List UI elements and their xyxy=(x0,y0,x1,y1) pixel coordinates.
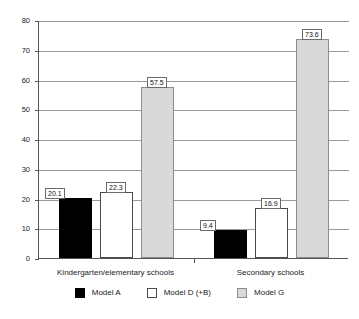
category-label-1: Secondary schools xyxy=(193,268,348,278)
bar-0-2 xyxy=(141,87,174,258)
chart-legend: Model A Model D (+B) Model G xyxy=(0,288,359,298)
bar-1-1 xyxy=(255,208,288,258)
bar-1-2 xyxy=(296,39,329,258)
y-axis-tick-label: 80 xyxy=(0,17,30,25)
gridline xyxy=(39,21,349,22)
y-axis-tick-label: 60 xyxy=(0,77,30,85)
data-label-1-1: 16.9 xyxy=(261,198,281,209)
legend-swatch-model-d xyxy=(147,288,157,298)
y-axis-tick xyxy=(35,51,39,52)
bar-chart: 20.122.357.59.416.973.6 0102030405060708… xyxy=(0,0,359,319)
legend-swatch-model-a xyxy=(75,288,85,298)
legend-item-model-d: Model D (+B) xyxy=(147,288,211,298)
bar-0-1 xyxy=(100,192,133,258)
y-axis-tick-label: 20 xyxy=(0,196,30,204)
x-axis-tick xyxy=(194,258,195,263)
data-label-1-0: 9.4 xyxy=(200,220,216,231)
y-axis-tick xyxy=(35,229,39,230)
legend-swatch-model-g xyxy=(237,288,247,298)
data-label-0-2: 57.5 xyxy=(147,77,167,88)
y-axis-tick xyxy=(35,259,39,260)
y-axis-tick xyxy=(35,140,39,141)
legend-label-model-a: Model A xyxy=(92,288,121,298)
y-axis-tick xyxy=(35,200,39,201)
legend-item-model-a: Model A xyxy=(75,288,121,298)
bar-1-0 xyxy=(214,230,247,258)
y-axis-tick-label: 0 xyxy=(0,255,30,263)
legend-label-model-d: Model D (+B) xyxy=(164,288,211,298)
data-label-0-0: 20.1 xyxy=(45,188,65,199)
y-axis-tick-label: 70 xyxy=(0,47,30,55)
y-axis-tick-label: 40 xyxy=(0,136,30,144)
bar-0-0 xyxy=(59,198,92,258)
legend-item-model-g: Model G xyxy=(237,288,284,298)
category-label-0: Kindergarten/elementary schools xyxy=(38,268,193,278)
plot-area: 20.122.357.59.416.973.6 xyxy=(38,21,348,259)
legend-label-model-g: Model G xyxy=(254,288,284,298)
y-axis-tick xyxy=(35,110,39,111)
y-axis-tick xyxy=(35,81,39,82)
y-axis-tick xyxy=(35,21,39,22)
y-axis-tick-label: 30 xyxy=(0,166,30,174)
y-axis-tick xyxy=(35,170,39,171)
y-axis-tick-label: 10 xyxy=(0,226,30,234)
data-label-0-1: 22.3 xyxy=(106,182,126,193)
y-axis-tick-label: 50 xyxy=(0,107,30,115)
data-label-1-2: 73.6 xyxy=(302,29,322,40)
